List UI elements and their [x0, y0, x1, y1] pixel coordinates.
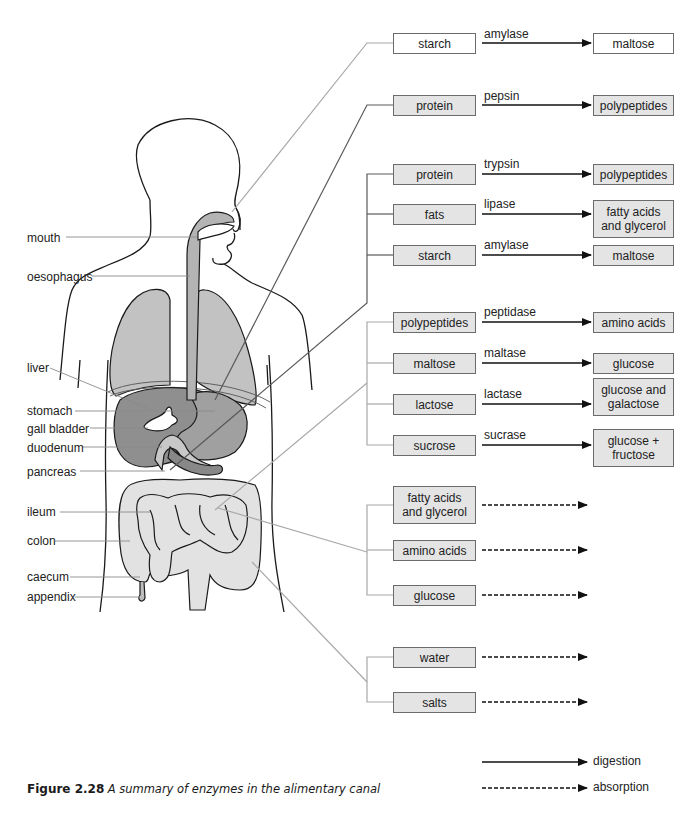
enzyme-label: amylase [484, 28, 529, 41]
substrate-box: protein [393, 95, 476, 116]
figure-caption: Figure 2.28 A summary of enzymes in the … [27, 782, 380, 796]
label-colon: colon [27, 534, 56, 548]
absorbed-box: fatty acids and glycerol [393, 486, 476, 524]
enzyme-label: pepsin [484, 90, 519, 103]
label-duodenum: duodenum [27, 441, 84, 455]
label-appendix: appendix [27, 590, 76, 604]
label-mouth: mouth [27, 231, 60, 245]
product-box: fatty acids and glycerol [593, 200, 674, 238]
substrate-box: starch [393, 245, 476, 266]
product-box: maltose [593, 33, 674, 54]
label-liver: liver [27, 361, 49, 375]
enzyme-label: maltase [484, 347, 526, 360]
absorbed-box: glucose [393, 585, 476, 606]
label-gall-bladder: gall bladder [27, 422, 89, 436]
legend-absorption-label: absorption [593, 780, 649, 794]
legend-digestion-label: digestion [593, 754, 641, 768]
substrate-box: fats [393, 204, 476, 225]
substrate-box: sucrose [393, 435, 476, 456]
figure-number: Figure 2.28 [27, 782, 104, 796]
appendix [139, 582, 145, 601]
substrate-box: polypeptides [393, 312, 476, 333]
arrows [482, 43, 591, 788]
product-box: glucose and galactose [593, 378, 674, 416]
figure-caption-text: A summary of enzymes in the alimentary c… [108, 782, 381, 796]
substrate-box: starch [393, 33, 476, 54]
alimentary-canal-diagram [0, 0, 694, 819]
substrate-box: maltose [393, 353, 476, 374]
substrate-box: lactose [393, 394, 476, 415]
label-stomach: stomach [27, 404, 72, 418]
label-pancreas: pancreas [27, 465, 76, 479]
absorbed-box: salts [393, 692, 476, 713]
enzyme-label: lactase [484, 388, 522, 401]
enzyme-label: amylase [484, 239, 529, 252]
product-box: polypeptides [593, 95, 674, 116]
product-box: glucose + fructose [593, 429, 674, 467]
right-lung [194, 290, 256, 405]
product-box: glucose [593, 353, 674, 374]
absorbed-box: amino acids [393, 540, 476, 561]
label-oesophagus: oesophagus [27, 270, 92, 284]
label-caecum: caecum [27, 570, 69, 584]
enzyme-label: sucrase [484, 429, 526, 442]
product-box: amino acids [593, 312, 674, 333]
enzyme-label: trypsin [484, 158, 519, 171]
label-ileum: ileum [27, 505, 56, 519]
product-box: maltose [593, 245, 674, 266]
absorbed-box: water [393, 647, 476, 668]
product-box: polypeptides [593, 164, 674, 185]
enzyme-label: peptidase [484, 306, 536, 319]
enzyme-label: lipase [484, 198, 515, 211]
substrate-box: protein [393, 164, 476, 185]
left-lung [110, 289, 170, 396]
